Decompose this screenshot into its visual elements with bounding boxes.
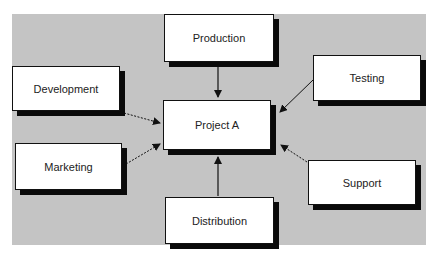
- arrow-marketing: [126, 144, 160, 164]
- arrow-support: [281, 145, 307, 162]
- arrow-development: [124, 113, 160, 123]
- node-label: Project A: [195, 119, 239, 131]
- node-distribution: Distribution: [165, 197, 274, 244]
- node-support: Support: [308, 160, 416, 205]
- node-production: Production: [164, 14, 274, 62]
- node-label: Development: [34, 83, 99, 95]
- node-label: Production: [193, 32, 246, 44]
- node-label: Testing: [350, 72, 385, 84]
- arrow-testing: [280, 80, 313, 112]
- node-testing: Testing: [313, 55, 421, 101]
- node-label: Support: [343, 177, 382, 189]
- node-project-a: Project A: [163, 100, 271, 150]
- node-label: Distribution: [192, 215, 247, 227]
- node-development: Development: [12, 66, 120, 111]
- node-marketing: Marketing: [15, 143, 122, 190]
- node-label: Marketing: [44, 161, 92, 173]
